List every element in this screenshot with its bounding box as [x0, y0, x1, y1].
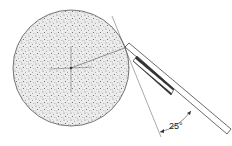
diagram-canvas: 25°	[0, 0, 232, 146]
angle-indicator: 25°	[160, 111, 191, 133]
arrowhead-right-icon	[187, 111, 191, 115]
arrowhead-left-icon	[160, 129, 164, 133]
angle-label: 25°	[169, 121, 183, 131]
grinding-wheel	[13, 10, 129, 126]
